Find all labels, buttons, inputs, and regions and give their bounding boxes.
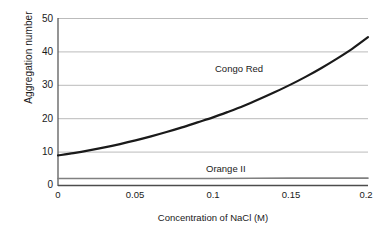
gridlines — [58, 19, 368, 153]
series-line-congo-red — [58, 37, 368, 155]
chart-figure: Aggregation number 50 40 30 20 10 0 0 0.… — [0, 0, 385, 235]
series-label-orange-ii: Orange II — [206, 164, 246, 174]
plot-area — [0, 0, 385, 235]
series-label-congo-red: Congo Red — [215, 64, 263, 74]
